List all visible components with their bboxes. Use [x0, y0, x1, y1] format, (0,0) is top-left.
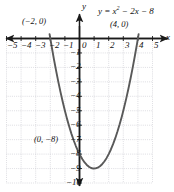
ytick-label-neg1: −1	[70, 48, 81, 57]
xtick-label-2: 2	[110, 41, 115, 50]
xtick-label-neg5: −5	[7, 41, 18, 50]
ytick-label-neg5: −5	[70, 106, 81, 115]
ytick-label-neg4: −4	[70, 91, 81, 100]
equation-rhs: − 2x − 8	[120, 6, 154, 16]
xtick-label-neg4: −4	[21, 41, 32, 50]
coordinate-plane	[0, 0, 174, 192]
xtick-label-neg3: −3	[35, 41, 46, 50]
ytick-label-neg3: −3	[70, 77, 81, 86]
annotation-y-intercept: (0, −8)	[34, 135, 58, 144]
xtick-label-4: 4	[139, 41, 144, 50]
annotation-root-left: (−2, 0)	[22, 17, 46, 26]
xtick-label-neg2: −2	[49, 41, 60, 50]
xtick-label-0: 0	[82, 41, 87, 50]
annotation-root-right: (4, 0)	[110, 20, 128, 29]
ytick-label-neg6: −6	[70, 120, 81, 129]
equation-label: y = x2 − 2x − 8	[98, 5, 154, 16]
ytick-label-neg8: −8	[70, 149, 81, 158]
y-axis-label: y	[82, 2, 86, 11]
xtick-label-3: 3	[125, 41, 130, 50]
xtick-label-1: 1	[96, 41, 101, 50]
ytick-label-neg7: −7	[70, 135, 81, 144]
x-axis-label: x	[166, 33, 170, 42]
xtick-label-5: 5	[154, 41, 159, 50]
graph-figure: −5 −4 −3 −2 −1 0 1 2 3 4 5 −1 −2 −3 −4 −…	[0, 0, 174, 192]
equation-lhs: y = x	[98, 6, 117, 16]
ytick-label-neg10: −10	[66, 178, 81, 187]
ytick-label-neg2: −2	[70, 62, 81, 71]
ytick-label-neg9: −9	[70, 164, 81, 173]
